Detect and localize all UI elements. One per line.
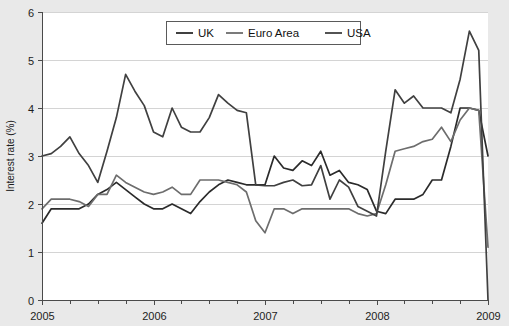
y-tick-label: 6 [28, 7, 34, 19]
chart-legend: UKEuro AreaUSA [166, 21, 371, 44]
x-tick-label: 2008 [365, 310, 389, 322]
x-tick-label: 2007 [253, 310, 277, 322]
chart-canvas: 0123456 20052006200720082009 Interest ra… [0, 0, 509, 326]
x-tick-label: 2005 [30, 310, 54, 322]
legend-label-uk: UK [198, 27, 214, 39]
y-axis-title: Interest rate (%) [5, 120, 16, 192]
x-tick-label: 2009 [476, 310, 500, 322]
legend-label-euro-area: Euro Area [248, 27, 300, 39]
x-tick-label: 2006 [142, 310, 166, 322]
y-tick-label: 1 [28, 247, 34, 259]
y-tick-label: 3 [28, 151, 34, 163]
y-tick-label: 0 [28, 295, 34, 307]
y-tick-label: 4 [28, 103, 34, 115]
interest-rate-line-chart: 0123456 20052006200720082009 Interest ra… [0, 0, 509, 326]
y-tick-label: 5 [28, 55, 34, 67]
legend-label-usa: USA [347, 27, 371, 39]
y-tick-label: 2 [28, 199, 34, 211]
